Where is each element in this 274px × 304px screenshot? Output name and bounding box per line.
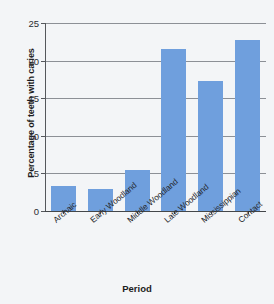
y-tick-label: 10 (28, 130, 39, 141)
bar (235, 40, 260, 211)
gridline (46, 136, 266, 137)
y-tick-label: 15 (28, 93, 39, 104)
y-axis-line (45, 23, 46, 211)
gridline (46, 61, 266, 62)
y-tick-label: 20 (28, 55, 39, 66)
y-tick-mark (41, 136, 45, 137)
y-tick-mark (41, 61, 45, 62)
y-tick-label: 0 (34, 206, 39, 217)
y-tick-label: 5 (34, 168, 39, 179)
x-axis-title: Period (0, 283, 274, 294)
plot-area: 0510152025 (45, 23, 266, 211)
y-tick-mark (41, 23, 45, 24)
y-tick-mark (41, 98, 45, 99)
y-tick-label: 25 (28, 18, 39, 29)
y-tick-mark (41, 173, 45, 174)
bar-chart-figure: Percentage of teeth with caries 05101520… (0, 0, 274, 304)
gridline (46, 173, 266, 174)
gridline (46, 98, 266, 99)
y-axis-title: Percentage of teeth with caries (26, 13, 36, 213)
gridline (46, 23, 266, 24)
x-axis-line (45, 211, 266, 212)
y-tick-mark (41, 211, 45, 212)
